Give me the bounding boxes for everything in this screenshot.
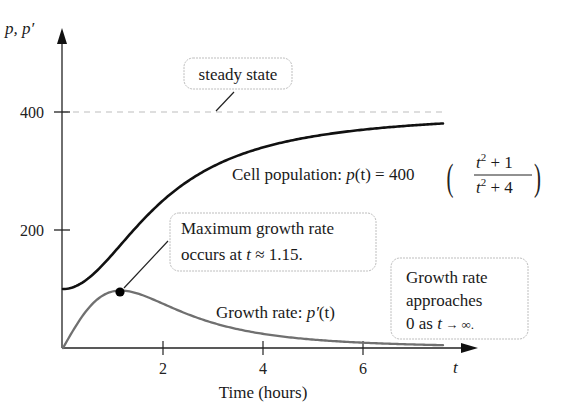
p-symbol: p (345, 165, 355, 184)
max-text-b: ≈ 1.15. (251, 245, 303, 264)
max-rate-line2: occurs at t ≈ 1.15. (181, 245, 303, 264)
approach-a: 0 as (406, 314, 437, 333)
y-axis-arrow-icon (57, 28, 67, 44)
steady-state-label: steady state (199, 65, 278, 84)
max-text-a: occurs at (181, 245, 246, 264)
approach-b: → ∞. (442, 317, 474, 332)
y-tick-200: 200 (20, 222, 44, 239)
rate-t: (t) (319, 303, 335, 322)
x-axis-variable: t (453, 358, 459, 377)
population-formula: Cell population: p(t) = 400 ( t2 + 1 t2 … (232, 151, 541, 199)
max-rate-line1: Maximum growth rate (181, 219, 334, 238)
steady-state-leader (216, 92, 234, 111)
right-paren: ) (534, 157, 541, 199)
x-tick-2: 2 (159, 360, 167, 377)
chart-canvas: p, p′ 400 200 2 4 6 t Time (hours) stead… (0, 0, 562, 412)
y-tick-400: 400 (20, 104, 44, 121)
x-axis-title: Time (hours) (219, 383, 308, 402)
den-rest: + 4 (486, 178, 513, 197)
x-tick-4: 4 (259, 360, 267, 377)
approach-line3: 0 as t → ∞. (406, 314, 474, 333)
rate-p: p′ (306, 303, 320, 322)
svg-text:t2 + 1: t2 + 1 (476, 151, 513, 172)
svg-text:Cell population: p(t) = 400: Cell population: p(t) = 400 (232, 165, 414, 184)
growth-rate-label: Growth rate: p′(t) (216, 303, 335, 322)
rate-prefix: Growth rate: (216, 303, 307, 322)
approach-line2: approaches (406, 291, 482, 310)
population-label-prefix: Cell population: (232, 165, 346, 184)
num-rest: + 1 (486, 153, 513, 172)
max-rate-leader (124, 241, 168, 288)
max-growth-marker (115, 287, 124, 296)
svg-text:t2 + 4: t2 + 4 (476, 176, 513, 197)
x-axis (62, 341, 478, 355)
t-arg: (t) (355, 165, 371, 184)
left-paren: ( (447, 157, 454, 199)
y-axis-title: p, p′ (4, 19, 35, 38)
x-axis-arrow-icon (461, 343, 478, 353)
approach-line1: Growth rate (406, 268, 488, 287)
x-tick-6: 6 (359, 360, 367, 377)
equals-400: = 400 (371, 165, 415, 184)
y-axis (54, 28, 70, 348)
